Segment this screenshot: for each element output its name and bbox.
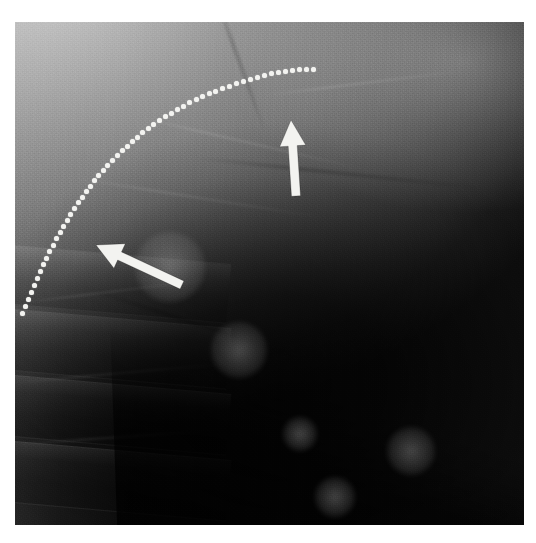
radiograph-plate bbox=[15, 22, 524, 525]
film-margin-left bbox=[0, 0, 15, 543]
film-margin-bottom bbox=[0, 525, 536, 543]
film-grain-layer-secondary bbox=[15, 22, 524, 525]
film-margin-right bbox=[524, 0, 536, 543]
radiograph-figure bbox=[0, 0, 536, 543]
film-margin-top bbox=[0, 0, 536, 22]
